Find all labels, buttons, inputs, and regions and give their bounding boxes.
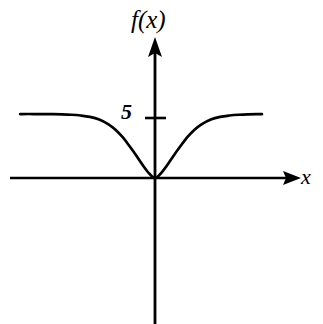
plot-canvas xyxy=(0,0,323,324)
y-axis-label: f(x) xyxy=(131,7,166,32)
function-curve xyxy=(20,114,262,178)
function-graph-figure: f(x) x 5 xyxy=(0,0,323,324)
x-axis-label: x xyxy=(301,166,311,188)
y-tick-label-5: 5 xyxy=(121,101,132,123)
